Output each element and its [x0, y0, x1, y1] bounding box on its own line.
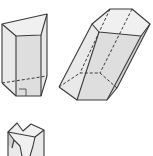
- oblique-hexagonal-prism: [59, 9, 150, 100]
- y-shaped-prism: [8, 123, 44, 156]
- prism1-front-face: [16, 35, 41, 96]
- right-quadrilateral-prism: [2, 14, 47, 96]
- prisms-diagram: [0, 0, 153, 156]
